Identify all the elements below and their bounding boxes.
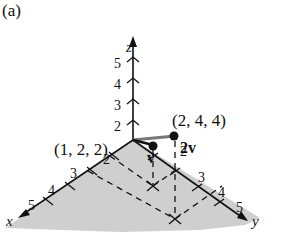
z-tick-2: 2 bbox=[114, 119, 121, 134]
point-label-1-2-2: (1, 2, 2) bbox=[54, 140, 108, 159]
point-2-4-4 bbox=[170, 132, 179, 141]
z-tick-3: 3 bbox=[114, 98, 121, 113]
vector-label-v: v bbox=[147, 149, 155, 166]
x-axis-label: x bbox=[5, 213, 13, 229]
x-tick-5: 5 bbox=[28, 198, 35, 213]
y-axis-label: y bbox=[250, 213, 259, 229]
y-tick-5: 5 bbox=[236, 200, 243, 215]
x-tick-3: 3 bbox=[70, 166, 77, 181]
vector-diagram: (a) z x y 2 3 4 5 2 3 4 5 2 3 4 5 (1, 2,… bbox=[0, 0, 290, 239]
x-tick-4: 4 bbox=[48, 183, 55, 198]
y-tick-4: 4 bbox=[218, 185, 225, 200]
point-label-2-4-4: (2, 4, 4) bbox=[172, 111, 226, 130]
y-tick-3: 3 bbox=[198, 170, 205, 185]
z-axis-label: z bbox=[125, 39, 132, 55]
vector-2v bbox=[133, 136, 175, 140]
z-tick-5: 5 bbox=[114, 56, 121, 71]
panel-label: (a) bbox=[2, 1, 21, 20]
vector-label-2v: 2v bbox=[180, 139, 196, 156]
z-tick-4: 4 bbox=[114, 77, 121, 92]
